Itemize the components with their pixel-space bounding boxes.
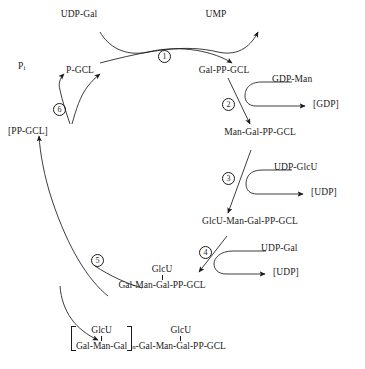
label-udp-released-2: [UDP] bbox=[273, 268, 299, 278]
polymer-branch-inner-label: GlcU bbox=[91, 326, 112, 336]
arrow-step1-forward bbox=[100, 32, 258, 63]
label-udp-gal-step4: UDP-Gal bbox=[261, 244, 298, 254]
polymer-branch-tail-label: GlcU bbox=[170, 326, 191, 336]
arrow-recycle-to-pp-gcl bbox=[39, 136, 108, 296]
polymer-repeat-unit: GlcU Gal-Man-Gal bbox=[76, 326, 127, 351]
arrow-step3-substrate-hook bbox=[246, 170, 292, 194]
step-number-2: 2 bbox=[222, 98, 235, 111]
label-gdp-released: [GDP] bbox=[313, 100, 339, 110]
label-pi-subscript: i bbox=[23, 64, 25, 71]
arrow-step6-to-p-gcl bbox=[72, 74, 100, 124]
step-number-4: 4 bbox=[199, 246, 212, 259]
repeat-unit-branch-label: GlcU bbox=[152, 265, 173, 275]
repeat-unit-backbone-label: Gal-Man-Gal-PP-GCL bbox=[118, 281, 205, 291]
label-p-gcl: P-GCL bbox=[66, 66, 94, 76]
step-number-3: 3 bbox=[222, 172, 235, 185]
step-number-5: 5 bbox=[91, 254, 104, 267]
label-man-gal-pp-gcl: Man-Gal-PP-GCL bbox=[224, 128, 296, 138]
label-udp-gal-top: UDP-Gal bbox=[61, 10, 98, 20]
pathway-diagram: UDP-Gal UMP P-GCL Pi Gal-PP-GCL GDP-Man … bbox=[0, 0, 365, 369]
label-udp-glcu: UDP-GlcU bbox=[274, 163, 318, 173]
pathway-arrows-layer bbox=[0, 0, 365, 369]
label-gdp-man: GDP-Man bbox=[272, 75, 312, 85]
arrow-step4-substrate-hook bbox=[214, 251, 266, 274]
label-gal-pp-gcl: Gal-PP-GCL bbox=[199, 66, 250, 76]
label-pi: Pi bbox=[18, 62, 25, 72]
arrow-step6-to-pi bbox=[59, 74, 70, 124]
polymer-terminal-unit: GlcU -Gal-Man-Gal-PP-GCL bbox=[136, 326, 226, 351]
polymer-backbone-tail-label: -Gal-Man-Gal-PP-GCL bbox=[136, 342, 226, 352]
label-glcu-man-gal-pp-gcl: GlcU-Man-Gal-PP-GCL bbox=[202, 217, 298, 227]
step-number-1: 1 bbox=[158, 50, 171, 63]
repeat-unit-structure: GlcU Gal-Man-Gal-PP-GCL bbox=[104, 265, 220, 290]
label-udp-released-1: [UDP] bbox=[311, 188, 337, 198]
label-ump: UMP bbox=[206, 10, 227, 20]
arrow-step2-substrate-hook bbox=[245, 82, 292, 106]
step-number-6: 6 bbox=[53, 103, 66, 116]
polymer-structure: GlcU Gal-Man-Gal n GlcU -Gal-Man-Gal-PP-… bbox=[71, 326, 226, 351]
label-pp-gcl: [PP-GCL] bbox=[8, 127, 48, 137]
polymer-backbone-inner-label: Gal-Man-Gal bbox=[76, 342, 127, 352]
